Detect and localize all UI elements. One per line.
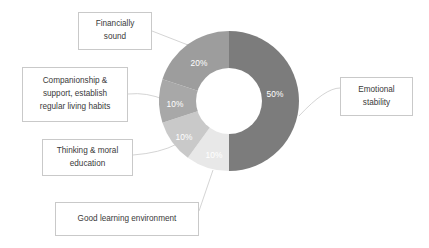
slice-value-thinking-moral-education: 10% bbox=[175, 132, 192, 142]
callout-emotional-line2: stability bbox=[345, 97, 408, 110]
callout-companionship-line1: Companionship & bbox=[27, 75, 123, 88]
slice-value-emotional-stability: 50% bbox=[266, 89, 283, 99]
callout-good-learning-environment[interactable]: Good learning environment bbox=[55, 202, 199, 236]
donut-chart-figure: 50% 10% 10% 10% 20% Financially sound Co… bbox=[0, 0, 429, 248]
callout-financially-sound-line1: Financially bbox=[83, 18, 147, 31]
leader-line-good-learning bbox=[199, 170, 213, 211]
callout-thinking-line2: education bbox=[47, 158, 128, 171]
callout-thinking-text: Thinking & moral education bbox=[47, 145, 128, 170]
callout-thinking-line1: Thinking & moral bbox=[47, 145, 128, 158]
slice-value-financially-sound: 20% bbox=[190, 58, 207, 68]
callout-financially-sound[interactable]: Financially sound bbox=[78, 12, 152, 50]
callout-companionship-line3: regular living habits bbox=[27, 101, 123, 114]
slice-value-companionship-support: 10% bbox=[166, 99, 183, 109]
slice-value-good-learning-environment: 10% bbox=[205, 150, 222, 160]
leader-line-emotional-stability bbox=[299, 88, 340, 116]
callout-financially-sound-text: Financially sound bbox=[83, 18, 147, 43]
donut-hole bbox=[196, 68, 262, 134]
callout-thinking-moral-education[interactable]: Thinking & moral education bbox=[42, 139, 133, 176]
callout-emotional-line1: Emotional bbox=[345, 84, 408, 97]
callout-good-learning-line1: Good learning environment bbox=[60, 213, 194, 226]
callout-emotional-stability[interactable]: Emotional stability bbox=[340, 77, 413, 116]
callout-emotional-text: Emotional stability bbox=[345, 84, 408, 109]
callout-companionship-text: Companionship & support, establish regul… bbox=[27, 75, 123, 113]
callout-good-learning-text: Good learning environment bbox=[60, 213, 194, 226]
callout-companionship-support[interactable]: Companionship & support, establish regul… bbox=[22, 67, 128, 122]
callout-companionship-line2: support, establish bbox=[27, 88, 123, 101]
callout-financially-sound-line2: sound bbox=[83, 31, 147, 44]
